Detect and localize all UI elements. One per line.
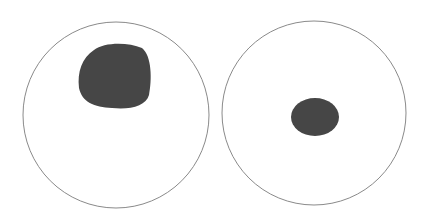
left-dark-blob	[79, 44, 151, 109]
diagram-canvas	[0, 0, 423, 223]
right-panel	[222, 21, 406, 205]
left-panel	[23, 22, 209, 208]
right-dark-blob	[291, 98, 339, 136]
